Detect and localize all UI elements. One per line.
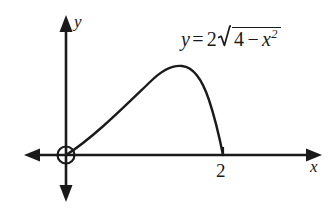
coordinate-plot xyxy=(0,0,335,209)
x-tick-label-2: 2 xyxy=(216,161,226,180)
y-axis-arrow-down xyxy=(60,185,73,202)
radicand-minus-sign: − xyxy=(247,28,259,50)
y-axis-arrow-up xyxy=(60,15,73,32)
radical-expression: 4−x2 xyxy=(218,27,281,49)
axis-label-x: x xyxy=(310,158,318,175)
radicand-first-term: 4 xyxy=(234,28,244,50)
equation-coefficient: 2 xyxy=(207,28,217,50)
x-axis-arrow-left xyxy=(24,149,40,162)
axis-label-y: y xyxy=(74,13,82,30)
radicand: 4−x2 xyxy=(232,27,281,49)
radicand-exponent: 2 xyxy=(271,27,278,41)
equation-annotation: y=2 4−x2 xyxy=(181,27,281,49)
curve-path xyxy=(66,66,223,155)
equation-lhs: y xyxy=(181,28,190,50)
radicand-variable: x xyxy=(262,28,271,50)
equation-equals: = xyxy=(192,28,204,50)
math-figure: y x 2 y=2 4−x2 xyxy=(0,0,335,209)
radical-sign-icon xyxy=(218,25,231,47)
